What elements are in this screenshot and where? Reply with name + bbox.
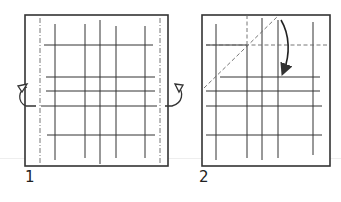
origami-diagram xyxy=(0,0,341,202)
step-number-2: 2 xyxy=(199,168,209,186)
step-number-1: 1 xyxy=(25,168,35,186)
step-2-diagram xyxy=(202,15,330,166)
step-1-diagram xyxy=(25,15,168,166)
